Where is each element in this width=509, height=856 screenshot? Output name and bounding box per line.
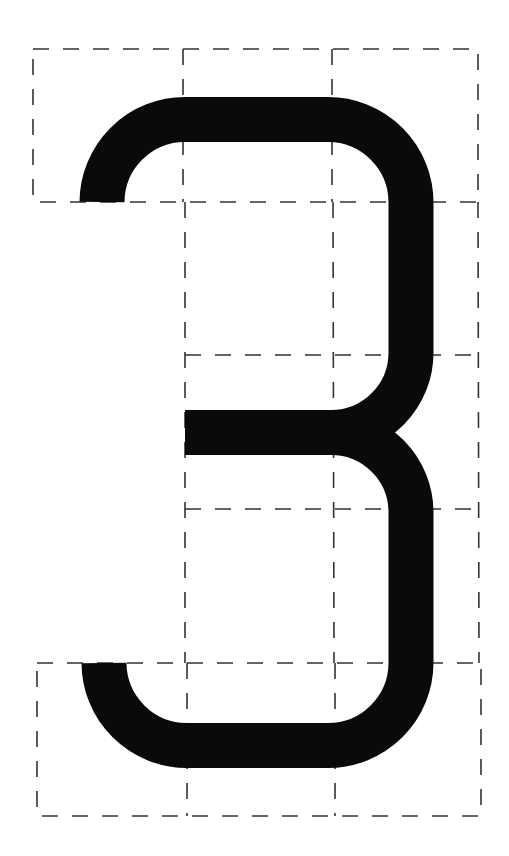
grid-middle-right [478,202,479,663]
numeral-3-diagram [0,0,509,856]
glyph-lower-stroke [104,433,411,746]
glyph-upper-stroke [102,120,411,433]
numeral-3-glyph [102,120,411,746]
